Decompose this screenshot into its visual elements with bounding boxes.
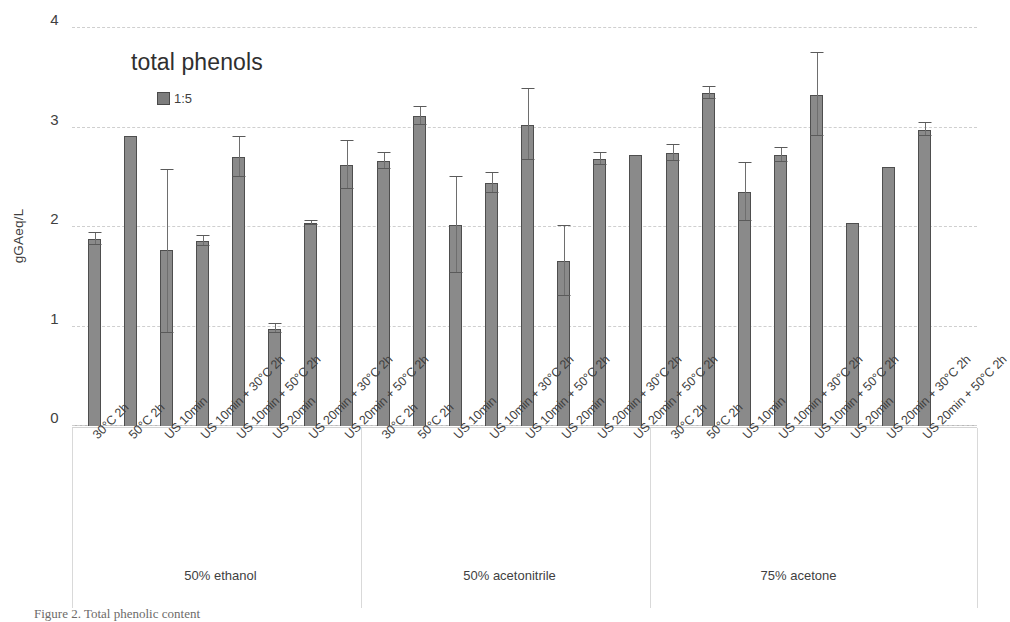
group-separator bbox=[650, 558, 651, 608]
y-axis-tick-1: 1 bbox=[50, 309, 67, 326]
error-bar-cap bbox=[485, 192, 498, 193]
chart-title: total phenols bbox=[131, 49, 263, 76]
legend-swatch-icon bbox=[157, 92, 170, 105]
error-bar-cap bbox=[232, 176, 245, 177]
error-bar-cap bbox=[232, 136, 245, 137]
error-bar bbox=[745, 163, 746, 221]
error-bar bbox=[456, 177, 457, 273]
error-bar bbox=[384, 153, 385, 169]
error-bar-cap bbox=[774, 161, 787, 162]
error-bar-cap bbox=[377, 168, 390, 169]
chart-legend: 1:5 bbox=[157, 91, 192, 106]
group-label: 75% acetone bbox=[761, 568, 837, 583]
group-separator bbox=[72, 558, 73, 608]
error-bar-cap bbox=[88, 244, 101, 245]
bar bbox=[810, 95, 823, 426]
error-bar bbox=[781, 148, 782, 162]
group-separator bbox=[977, 558, 978, 608]
error-bar-cap bbox=[593, 164, 606, 165]
error-bar-cap bbox=[377, 152, 390, 153]
error-bar-cap bbox=[413, 124, 426, 125]
error-bar-cap bbox=[196, 235, 209, 236]
error-bar-cap bbox=[521, 88, 534, 89]
y-axis-tick-3: 3 bbox=[50, 110, 67, 127]
error-bar bbox=[528, 89, 529, 161]
error-bar-cap bbox=[521, 159, 534, 160]
group-label: 50% ethanol bbox=[184, 568, 256, 583]
error-bar-cap bbox=[593, 152, 606, 153]
error-bar-cap bbox=[738, 162, 751, 163]
error-bar-cap bbox=[268, 332, 281, 333]
error-bar-cap bbox=[340, 140, 353, 141]
category-separator bbox=[977, 428, 978, 578]
y-axis-label: gGAeq/L bbox=[11, 209, 26, 264]
error-bar-cap bbox=[918, 122, 931, 123]
category-separator bbox=[361, 428, 362, 578]
error-bar-cap bbox=[774, 147, 787, 148]
category-separator bbox=[72, 428, 73, 578]
error-bar-cap bbox=[413, 106, 426, 107]
error-bar-cap bbox=[160, 332, 173, 333]
figure-caption: Figure 2. Total phenolic content bbox=[34, 606, 200, 622]
error-bar-cap bbox=[196, 245, 209, 246]
bar bbox=[593, 159, 606, 426]
error-bar-cap bbox=[918, 135, 931, 136]
error-bar-cap bbox=[449, 176, 462, 177]
bar bbox=[774, 155, 787, 426]
bar bbox=[88, 239, 101, 426]
category-axis-band: 30°C 2h50°C 2hUS 10minUS 10min + 30°C 2h… bbox=[72, 427, 977, 621]
error-bar-cap bbox=[702, 86, 715, 87]
error-bar-cap bbox=[160, 169, 173, 170]
error-bar-cap bbox=[666, 144, 679, 145]
legend-label: 1:5 bbox=[174, 91, 192, 106]
error-bar-cap bbox=[738, 220, 751, 221]
error-bar bbox=[492, 173, 493, 193]
error-bar bbox=[673, 145, 674, 161]
error-bar-cap bbox=[557, 295, 570, 296]
error-bar-cap bbox=[449, 272, 462, 273]
group-label: 50% acetonitrile bbox=[463, 568, 556, 583]
bar bbox=[485, 183, 498, 426]
error-bar-cap bbox=[485, 172, 498, 173]
error-bar-cap bbox=[666, 160, 679, 161]
error-bar bbox=[167, 170, 168, 333]
gridline bbox=[72, 27, 977, 28]
error-bar-cap bbox=[304, 224, 317, 225]
error-bar bbox=[239, 137, 240, 177]
bar bbox=[521, 125, 534, 426]
error-bar-cap bbox=[810, 52, 823, 53]
error-bar bbox=[817, 53, 818, 137]
y-axis-tick-0: 0 bbox=[50, 409, 67, 426]
error-bar-cap bbox=[340, 188, 353, 189]
y-axis-tick-2: 2 bbox=[50, 210, 67, 227]
error-bar-cap bbox=[702, 98, 715, 99]
error-bar-cap bbox=[557, 225, 570, 226]
error-bar bbox=[925, 123, 926, 137]
error-bar-cap bbox=[304, 220, 317, 221]
error-bar bbox=[564, 226, 565, 296]
category-separator bbox=[650, 428, 651, 578]
bar bbox=[918, 130, 931, 427]
group-separator bbox=[361, 558, 362, 608]
bar bbox=[413, 116, 426, 426]
error-bar-cap bbox=[810, 135, 823, 136]
error-bar-cap bbox=[268, 323, 281, 324]
bar bbox=[882, 167, 895, 426]
bar bbox=[124, 136, 137, 426]
error-bar bbox=[347, 141, 348, 189]
error-bar bbox=[420, 107, 421, 125]
y-axis-tick-4: 4 bbox=[50, 11, 67, 28]
error-bar-cap bbox=[88, 232, 101, 233]
bar bbox=[738, 192, 751, 426]
